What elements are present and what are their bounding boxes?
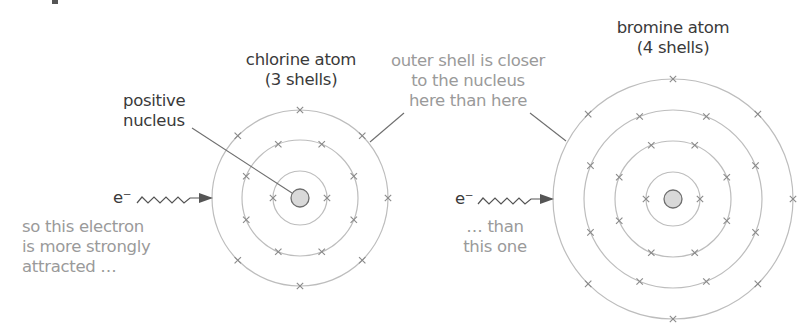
electron-icon	[636, 278, 642, 284]
positive-nucleus-label-line2: nucleus	[123, 111, 185, 131]
left-electron-caption-line1: so this electron	[22, 217, 150, 237]
electron-icon	[616, 174, 622, 180]
left-electron-caption-line2: is more strongly	[22, 237, 150, 257]
electron-icon	[275, 141, 281, 147]
outer-shell-annotation-line3: here than here	[383, 91, 553, 111]
incoming-electron-arrow-bromine	[478, 198, 552, 204]
outer-shell-leader-line-bromine	[530, 113, 566, 141]
chlorine-atom-label-line1: chlorine atom	[236, 50, 366, 70]
incoming-electron-arrow-chlorine	[137, 197, 211, 203]
positive-nucleus-label-line1: positive	[123, 91, 185, 111]
right-electron-caption: … than this one	[455, 217, 535, 257]
electron-icon	[587, 229, 593, 235]
electron-icon	[275, 249, 281, 255]
electron-icon	[243, 173, 249, 179]
chlorine-atom-label: chlorine atom (3 shells)	[236, 50, 366, 90]
electron-icon	[359, 257, 365, 263]
chlorine-atom-label-line2: (3 shells)	[236, 70, 366, 90]
bromine-atom-label-line2: (4 shells)	[605, 38, 741, 58]
outer-shell-leader-line-chlorine	[370, 113, 404, 142]
electron-icon	[755, 111, 761, 117]
right-electron-caption-line2: this one	[455, 237, 535, 257]
electron-icon	[235, 257, 241, 263]
bromine-atom	[553, 76, 796, 322]
nucleus-icon	[291, 189, 309, 207]
electron-icon	[703, 113, 709, 119]
electron-icon	[585, 281, 591, 287]
electron-icon	[648, 142, 654, 148]
electron-icon	[587, 162, 593, 168]
positive-nucleus-label: positive nucleus	[123, 91, 185, 131]
electron-icon	[319, 141, 325, 147]
electron-icon	[755, 281, 761, 287]
electron-icon	[235, 133, 241, 139]
electron-icon	[351, 217, 357, 223]
electron-icon	[692, 142, 698, 148]
electron-icon	[585, 111, 591, 117]
electron-icon	[752, 162, 758, 168]
outer-shell-annotation-line2: to the nucleus	[383, 71, 553, 91]
electron-symbol-bromine: e⁻	[455, 189, 473, 209]
atom-comparison-diagram: chlorine atom (3 shells) bromine atom (4…	[0, 0, 806, 334]
electron-icon	[724, 174, 730, 180]
bromine-atom-label: bromine atom (4 shells)	[605, 18, 741, 58]
electron-icon	[703, 278, 709, 284]
chlorine-atom	[212, 107, 391, 289]
electron-symbol-chlorine: e⁻	[113, 188, 131, 208]
left-electron-caption-line3: attracted …	[22, 257, 150, 277]
electron-icon	[351, 173, 357, 179]
electron-icon	[648, 250, 654, 256]
electron-icon	[359, 133, 365, 139]
outer-shell-annotation: outer shell is closer to the nucleus her…	[383, 51, 553, 111]
electron-icon	[636, 113, 642, 119]
left-electron-caption: so this electron is more strongly attrac…	[22, 217, 150, 277]
electron-icon	[616, 218, 622, 224]
positive-nucleus-leader-line	[192, 128, 292, 193]
electron-icon	[724, 218, 730, 224]
right-electron-caption-line1: … than	[455, 217, 535, 237]
outer-shell-annotation-line1: outer shell is closer	[383, 51, 553, 71]
nucleus-icon	[664, 190, 682, 208]
electron-icon	[692, 250, 698, 256]
electron-icon	[243, 217, 249, 223]
electron-icon	[752, 229, 758, 235]
bromine-atom-label-line1: bromine atom	[605, 18, 741, 38]
electron-icon	[319, 249, 325, 255]
